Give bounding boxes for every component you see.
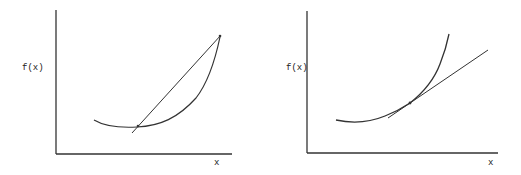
figure	[0, 0, 521, 175]
right-tangent-point	[409, 102, 412, 105]
left-secant-point-high	[219, 35, 222, 38]
right-tangent-line	[388, 50, 488, 118]
left-curve	[94, 37, 220, 127]
left-y-label: f(x)	[22, 63, 44, 73]
right-x-label: x	[488, 158, 493, 168]
left-secant-line	[132, 35, 221, 133]
right-panel	[307, 11, 498, 153]
left-secant-point-low	[137, 125, 140, 128]
right-curve	[336, 34, 449, 122]
right-y-label: f(x)	[286, 63, 308, 73]
left-x-label: x	[214, 158, 219, 168]
left-panel	[56, 10, 232, 154]
